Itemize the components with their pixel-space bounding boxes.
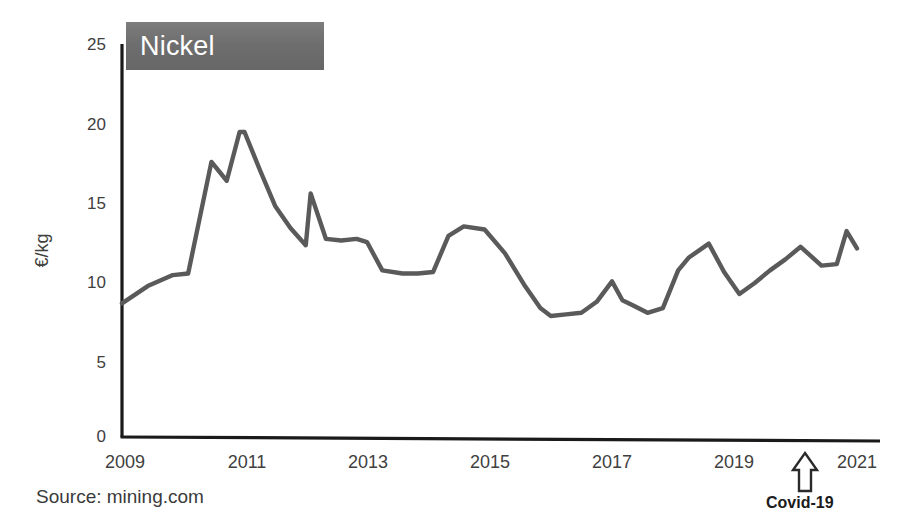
up-arrow-outline-icon xyxy=(793,453,817,491)
plot-area xyxy=(0,0,907,532)
nickel-price-line xyxy=(122,132,857,316)
x-axis-line xyxy=(121,437,881,441)
nickel-price-chart: Nickel €/kg 25 20 15 10 5 0 2009 2011 20… xyxy=(0,0,907,532)
